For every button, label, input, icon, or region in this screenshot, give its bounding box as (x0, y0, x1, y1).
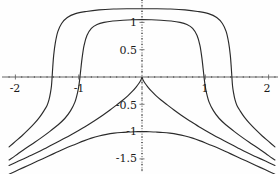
plot-figure: -2 -1 1 2 1 0.5 -0.5 -1 -1.5 (0, 0, 280, 174)
plot-canvas (0, 0, 280, 174)
y-tick-label--1: -1 (110, 126, 137, 137)
x-tick-label-2: 2 (264, 83, 271, 94)
x-tick-label--1: -1 (74, 83, 85, 94)
y-tick-label--0-5: -0.5 (110, 100, 137, 111)
y-tick-label-0-5: 0.5 (110, 45, 137, 56)
curve-curve-3-cusp-at-origin (9, 77, 275, 165)
x-tick-label--2: -2 (10, 83, 21, 94)
x-tick-label-1: 1 (202, 83, 209, 94)
y-tick-label-1: 1 (110, 17, 137, 28)
y-tick-label--1-5: -1.5 (108, 153, 137, 164)
